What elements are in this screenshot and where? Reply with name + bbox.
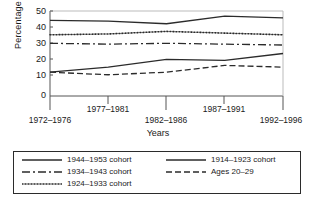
legend-line-swatch (22, 167, 62, 177)
legend-line-swatch (22, 179, 62, 189)
x-tick-label: 1982–1986 (145, 116, 188, 125)
legend-item[interactable]: Ages 20–29 (166, 167, 254, 177)
legend-label: 1944–1953 cohort (67, 156, 132, 164)
x-tick-label: 1987–1991 (203, 105, 246, 114)
series-line (50, 65, 283, 74)
line-chart: Percentage 50 40 30 20 10 0 (0, 0, 316, 201)
axes (50, 11, 283, 110)
legend-item[interactable]: 1924–1933 cohort (22, 179, 132, 189)
series-line (50, 43, 283, 45)
legend-line-swatch (166, 167, 206, 177)
legend: 1944–1953 cohort1934–1943 cohort1924–193… (13, 151, 301, 194)
legend-item[interactable]: 1944–1953 cohort (22, 155, 132, 165)
legend-label: Ages 20–29 (211, 168, 254, 176)
legend-line-swatch (166, 155, 206, 165)
series-line (50, 54, 283, 73)
legend-line-swatch (22, 155, 62, 165)
plot-area-wrapper: Percentage 50 40 30 20 10 0 (0, 0, 316, 145)
x-tick-label: 1977–1981 (87, 105, 130, 114)
legend-label: 1924–1933 cohort (67, 180, 132, 188)
series-line (50, 31, 283, 34)
data-series-group (50, 16, 283, 75)
legend-item[interactable]: 1934–1943 cohort (22, 167, 132, 177)
x-axis-title: Years (0, 128, 316, 138)
legend-label: 1914–1923 cohort (211, 156, 276, 164)
x-tick-label: 1972–1976 (29, 116, 72, 125)
legend-entries: 1944–1953 cohort1934–1943 cohort1924–193… (14, 152, 300, 193)
x-tick-label: 1992–1996 (260, 116, 303, 125)
legend-item[interactable]: 1914–1923 cohort (166, 155, 276, 165)
legend-label: 1934–1943 cohort (67, 168, 132, 176)
series-line (50, 16, 283, 24)
